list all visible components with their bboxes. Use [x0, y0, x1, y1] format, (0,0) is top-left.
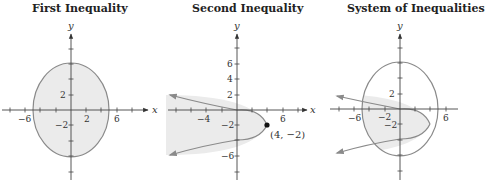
tick-label: 2	[227, 90, 233, 100]
tick-label: 2	[60, 90, 66, 100]
x-axis-label: x	[152, 104, 158, 115]
tick-label: 4	[227, 74, 233, 84]
tick-label: 6	[443, 113, 449, 123]
y-axis-label: y	[396, 20, 403, 31]
tick-label: −6	[221, 151, 235, 161]
tick-label: 2	[84, 114, 90, 124]
intersection-region	[329, 94, 430, 154]
y-axis-label: y	[233, 20, 240, 31]
tick-label: 6	[280, 114, 286, 124]
vertex-label: (4, −2)	[270, 129, 305, 140]
tick-label: 2	[389, 89, 395, 99]
graph-second-inequality: (4, −2) y x −4 6 6 4 2 −2 −6	[166, 20, 316, 180]
parabola-region	[166, 95, 267, 155]
tick-label: −6	[18, 114, 32, 124]
y-axis-label: y	[67, 20, 74, 31]
tick-label: −2	[55, 120, 68, 130]
x-axis-label: x	[310, 104, 316, 115]
vertex-point	[264, 122, 269, 127]
tick-label: 6	[227, 59, 233, 69]
graph-first-inequality: y x −6 2 6 2 −2	[2, 20, 158, 180]
tick-label: −4	[197, 114, 211, 124]
tick-label: 6	[114, 114, 120, 124]
graph-system-of-inequalities: y −6 −2 6 2 −2	[329, 20, 458, 180]
tick-label: −6	[348, 113, 362, 123]
tick-label: −2	[221, 120, 234, 130]
tick-label: −2	[384, 120, 397, 130]
